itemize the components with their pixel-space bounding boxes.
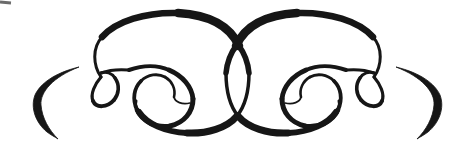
side-loop-right — [357, 78, 361, 100]
scan-mark — [0, 2, 11, 3]
circle-left-side — [373, 37, 380, 77]
side-loop-bottom — [361, 100, 382, 106]
loop-exit-east — [101, 70, 129, 73]
end-crescent — [396, 67, 442, 139]
side-loop-left — [92, 77, 101, 101]
flourish-ornament — [0, 0, 475, 155]
spiral-inner-top — [141, 75, 165, 81]
spiral-inner-tip — [174, 97, 190, 104]
circle-left-side — [95, 37, 102, 77]
vesica-lower — [237, 73, 249, 116]
spiral-inner-top — [310, 75, 334, 81]
spiral-inner-right — [300, 77, 310, 97]
bottom-sweep-inner — [187, 116, 237, 133]
end-crescent — [33, 67, 79, 139]
spiral-inner-right — [165, 77, 175, 97]
circle-top-left — [297, 13, 373, 37]
vesica-upper — [226, 46, 236, 73]
circle-top-right — [178, 13, 239, 46]
spiral-left-rise — [334, 81, 341, 110]
flourish-svg — [0, 0, 475, 155]
spiral-left-rise — [134, 81, 141, 110]
bottom-sweep-inner — [238, 116, 288, 133]
circle-top-right — [236, 13, 297, 46]
vesica-upper — [239, 46, 249, 73]
spiral-top — [129, 66, 169, 70]
circle-top-left — [102, 13, 178, 37]
loop-exit-east — [346, 70, 374, 73]
side-loop-bottom — [93, 100, 114, 106]
side-loop-right — [114, 78, 118, 100]
side-loop-left — [374, 77, 383, 101]
spiral-top — [306, 66, 346, 70]
spiral-inner-tip — [285, 97, 301, 104]
vesica-lower — [226, 73, 238, 116]
